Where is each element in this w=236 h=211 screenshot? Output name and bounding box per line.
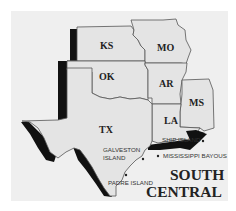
south-central-map: KS MO OK AR MS LA TX GALVESTON ISLAND PA… bbox=[0, 0, 236, 211]
label-galveston-line2: ISLAND bbox=[103, 154, 126, 161]
label-ship: SHIP ISLAND bbox=[162, 136, 201, 143]
marker-bayous bbox=[157, 155, 159, 157]
label-ok: OK bbox=[99, 71, 115, 82]
label-tx: TX bbox=[99, 124, 114, 135]
label-ks: KS bbox=[100, 40, 114, 51]
label-mo: MO bbox=[157, 42, 174, 53]
marker-galveston bbox=[142, 158, 144, 160]
label-bayous: MISSISSIPPI BAYOUS bbox=[163, 152, 227, 159]
region-title-line1: SOUTH bbox=[170, 166, 224, 183]
label-ms: MS bbox=[189, 97, 204, 108]
region-title-line2: CENTRAL bbox=[146, 183, 222, 200]
label-ar: AR bbox=[159, 78, 174, 89]
marker-padre bbox=[125, 174, 127, 176]
marker-ship bbox=[202, 140, 204, 142]
label-galveston-line1: GALVESTON bbox=[103, 146, 140, 153]
label-la: LA bbox=[164, 115, 179, 126]
